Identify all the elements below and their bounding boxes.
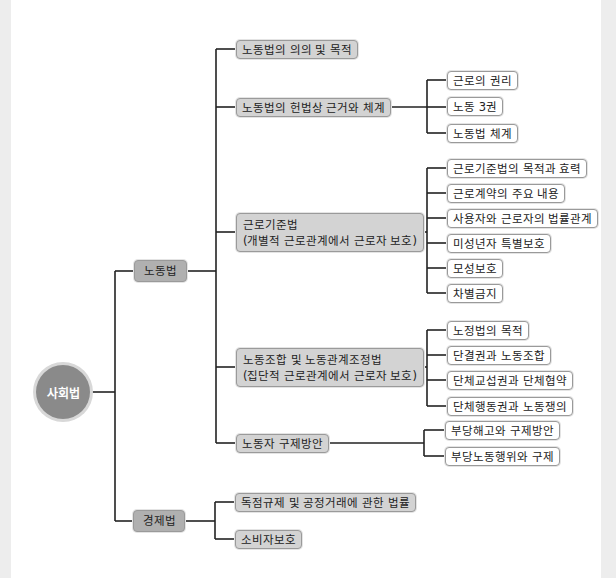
connector-lines (0, 0, 616, 578)
category-labor-law[interactable]: 노동법 (134, 260, 187, 282)
topic-trade-union-act[interactable]: 노동조합 및 노동관계조정법 (집단적 근로관계에서 근로자 보호) (236, 348, 424, 387)
topic-fair-trade-act[interactable]: 독점규제 및 공정거래에 관한 법률 (235, 493, 416, 512)
category-economic-law[interactable]: 경제법 (133, 510, 185, 532)
leaf-union-act-purpose[interactable]: 노정법의 목적 (447, 321, 529, 340)
leaf-anti-discrimination[interactable]: 차별금지 (447, 284, 503, 303)
topic-worker-remedies[interactable]: 노동자 구제방안 (236, 434, 329, 453)
leaf-right-to-organize[interactable]: 단결권과 노동조합 (447, 346, 551, 365)
topic-consumer-protection[interactable]: 소비자보호 (235, 530, 302, 549)
root-node-social-law[interactable]: 사회법 (36, 365, 90, 419)
leaf-unfair-dismissal[interactable]: 부당해고와 구제방안 (445, 421, 560, 440)
leaf-unfair-labor-practice[interactable]: 부당노동행위와 구제 (445, 447, 560, 466)
topic-labor-standards-act[interactable]: 근로기준법 (개별적 근로관계에서 근로자 보호) (236, 213, 424, 252)
leaf-employer-employee-relations[interactable]: 사용자와 근로자의 법률관계 (447, 209, 598, 228)
topic-labor-law-meaning[interactable]: 노동법의 의의 및 목적 (236, 40, 358, 59)
leaf-collective-bargaining[interactable]: 단체교섭권과 단체협약 (447, 371, 573, 390)
topic-constitutional-basis[interactable]: 노동법의 헌법상 근거와 체계 (236, 98, 391, 117)
leaf-lsa-purpose-effect[interactable]: 근로기준법의 목적과 효력 (447, 159, 587, 178)
leaf-minor-protection[interactable]: 미성년자 특별보호 (447, 234, 551, 253)
leaf-employment-contract[interactable]: 근로계약의 주요 내용 (447, 184, 565, 203)
leaf-three-labor-rights[interactable]: 노동 3권 (447, 97, 503, 116)
leaf-maternity-protection[interactable]: 모성보호 (447, 259, 503, 278)
leaf-right-to-work[interactable]: 근로의 권리 (447, 71, 518, 90)
leaf-labor-law-system[interactable]: 노동법 체계 (447, 124, 518, 143)
leaf-collective-action[interactable]: 단체행동권과 노동쟁의 (447, 397, 573, 416)
